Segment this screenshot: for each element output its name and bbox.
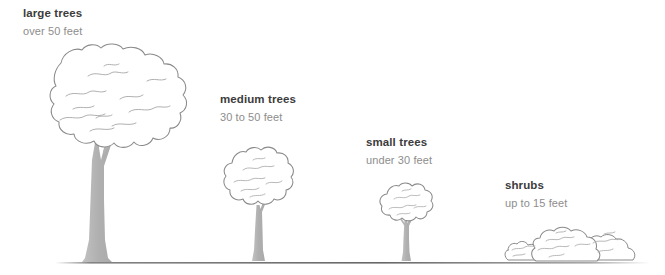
shrub-cluster-icon (505, 227, 635, 261)
label-large-trees-title: large trees (23, 8, 82, 20)
large-tree-trunk (82, 128, 118, 262)
label-small-trees-title: small trees (366, 137, 432, 149)
large-tree-canopy (50, 44, 186, 147)
label-small-trees-subtitle: under 30 feet (366, 155, 432, 166)
label-medium-trees-subtitle: 30 to 50 feet (220, 112, 296, 123)
large-tree-icon (50, 44, 186, 262)
medium-tree-icon (224, 147, 293, 261)
label-small-trees: small trees under 30 feet (366, 137, 432, 166)
tree-size-comparison-diagram: large trees over 50 feet medium trees 30… (0, 0, 665, 275)
small-tree-icon (380, 183, 433, 261)
label-medium-trees: medium trees 30 to 50 feet (220, 94, 296, 123)
label-medium-trees-title: medium trees (220, 94, 296, 106)
label-large-trees: large trees over 50 feet (23, 8, 82, 37)
label-large-trees-subtitle: over 50 feet (23, 26, 82, 37)
label-shrubs-subtitle: up to 15 feet (505, 198, 567, 209)
label-shrubs: shrubs up to 15 feet (505, 180, 567, 209)
label-shrubs-title: shrubs (505, 180, 567, 192)
small-tree-canopy (380, 183, 433, 221)
illustration-canvas (0, 0, 665, 275)
ground-line (55, 262, 650, 264)
medium-tree-trunk (252, 201, 266, 261)
